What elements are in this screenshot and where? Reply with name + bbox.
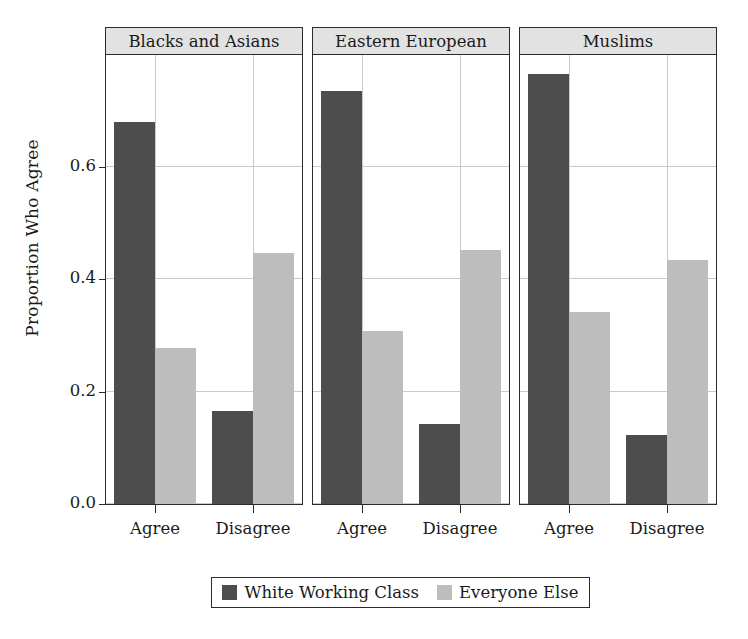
facet-panel-title: Muslims xyxy=(520,28,716,55)
x-axis-tick-mark xyxy=(460,505,461,513)
bar xyxy=(667,260,708,504)
legend-label: White Working Class xyxy=(244,583,419,602)
x-axis-tick-label: Disagree xyxy=(216,519,291,538)
bar xyxy=(155,348,196,504)
legend-item: Everyone Else xyxy=(437,583,578,602)
facet-panel: Blacks and Asians xyxy=(105,27,303,505)
facet-panel: Eastern European xyxy=(312,27,510,505)
facet-panel-plot-area xyxy=(520,55,716,504)
facet-panel-title: Eastern European xyxy=(313,28,509,55)
x-axis-tick-mark xyxy=(569,505,570,513)
bar xyxy=(212,411,253,504)
y-axis-tick-label: 0.6 xyxy=(70,156,96,175)
x-axis-tick-label: Agree xyxy=(544,519,594,538)
facet-bar-chart-figure: Proportion Who Agree 0.00.20.40.6 Blacks… xyxy=(0,0,748,639)
legend-swatch xyxy=(437,585,452,600)
y-axis: 0.00.20.40.6 xyxy=(0,0,106,639)
facet-panel-plot-area xyxy=(313,55,509,504)
bar xyxy=(528,74,569,504)
legend: White Working ClassEveryone Else xyxy=(211,577,590,608)
bar xyxy=(626,435,667,504)
facet-panels: Blacks and AsiansEastern EuropeanMuslims xyxy=(105,27,717,505)
bar xyxy=(569,312,610,504)
x-axis-tick-mark xyxy=(253,505,254,513)
bar xyxy=(419,424,460,504)
x-axis-tick-mark xyxy=(667,505,668,513)
x-axis-tick-label: Disagree xyxy=(423,519,498,538)
x-axis-tick-label: Agree xyxy=(130,519,180,538)
legend-item: White Working Class xyxy=(222,583,419,602)
bar xyxy=(114,122,155,505)
bar xyxy=(362,331,403,504)
facet-panel: Muslims xyxy=(519,27,717,505)
y-axis-tick-label: 0.2 xyxy=(70,381,96,400)
bar xyxy=(253,253,294,504)
legend-swatch xyxy=(222,585,237,600)
y-axis-tick-label: 0.4 xyxy=(70,268,96,287)
bar xyxy=(321,91,362,504)
x-axis-tick-label: Agree xyxy=(337,519,387,538)
x-axis-tick-mark xyxy=(362,505,363,513)
x-axis-tick-label: Disagree xyxy=(630,519,705,538)
x-axis-tick-mark xyxy=(155,505,156,513)
y-axis-tick-label: 0.0 xyxy=(70,493,96,512)
facet-panel-plot-area xyxy=(106,55,302,504)
bar xyxy=(460,250,501,504)
facet-panel-title: Blacks and Asians xyxy=(106,28,302,55)
legend-label: Everyone Else xyxy=(459,583,578,602)
